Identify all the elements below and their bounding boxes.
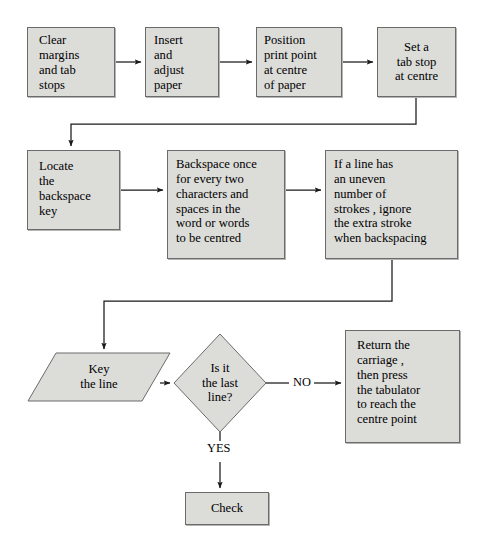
node-position-print-point[interactable]: Position print point at centre of paper (256, 27, 342, 97)
node-position-print-point-text: Position print point at centre of paper (264, 33, 317, 92)
node-backspace-once[interactable]: Backspace once for every two characters … (167, 150, 285, 259)
node-set-tab-stop-text: Set a tab stop at centre (395, 40, 438, 85)
node-key-the-line[interactable]: Key the line (28, 353, 170, 401)
node-check[interactable]: Check (185, 492, 269, 525)
node-insert-paper-text: Insert and adjust paper (154, 33, 184, 92)
edge-label-yes: YES (205, 441, 232, 456)
node-insert-paper[interactable]: Insert and adjust paper (145, 27, 219, 97)
node-return-carriage-text: Return the carriage , then press the tab… (357, 338, 420, 427)
connector-settab-to-locate (71, 98, 416, 146)
node-backspace-once-text: Backspace once for every two characters … (176, 157, 257, 246)
node-uneven-strokes[interactable]: If a line has an uneven number of stroke… (325, 150, 458, 259)
node-check-text: Check (211, 501, 243, 516)
node-is-it-the-last-line-text: Is it the last line? (174, 334, 266, 432)
edge-label-no: NO (291, 375, 313, 390)
node-key-the-line-text: Key the line (28, 353, 170, 401)
node-is-it-the-last-line[interactable]: Is it the last line? (174, 334, 266, 432)
node-locate-backspace-key-text: Locate the backspace key (39, 159, 91, 218)
node-set-tab-stop[interactable]: Set a tab stop at centre (377, 27, 456, 97)
node-return-carriage[interactable]: Return the carriage , then press the tab… (345, 330, 460, 443)
node-locate-backspace-key[interactable]: Locate the backspace key (27, 150, 120, 230)
node-clear-margins-text: Clear margins and tab stops (39, 33, 79, 92)
flowchart-canvas: Clear margins and tab stops Insert and a… (0, 0, 478, 549)
node-clear-margins[interactable]: Clear margins and tab stops (27, 27, 115, 97)
node-uneven-strokes-text: If a line has an uneven number of stroke… (334, 157, 427, 246)
